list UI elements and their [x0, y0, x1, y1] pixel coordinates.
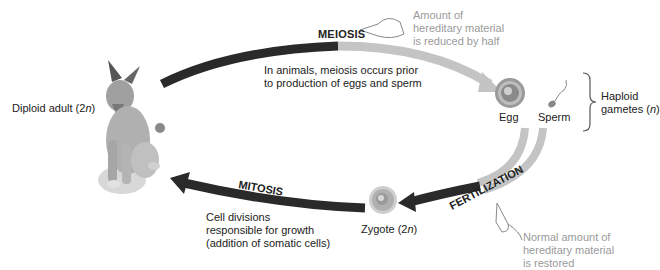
zygote-label: Zygote (2n): [361, 223, 417, 236]
zygote-label-text: Zygote (2: [361, 223, 407, 235]
diploid-adult-label-text: Diploid adult (2: [12, 102, 85, 114]
egg-label: Egg: [499, 111, 519, 124]
haploid-gametes-line1: Haploid: [601, 90, 660, 103]
haploid-gametes-label: Haploid gametes (n): [601, 90, 660, 116]
meiosis-title: MEIOSIS: [318, 28, 365, 40]
fertilization-note-line3: is restored: [523, 257, 614, 270]
meiosis-description: In animals, meiosis occurs prior to prod…: [264, 64, 422, 90]
fertilization-note-line1: Normal amount of: [523, 231, 614, 244]
sperm-cell: [547, 80, 567, 109]
pointing-hand-icon-meiosis: [360, 18, 404, 37]
mitosis-description: Cell divisions responsible for growth (a…: [206, 211, 330, 250]
gametes-bracket: [583, 73, 596, 131]
fertilization-note-line2: hereditary material: [523, 244, 614, 257]
mitosis-description-line3: (addition of somatic cells): [206, 237, 330, 250]
mitosis-description-line2: responsible for growth: [206, 224, 330, 237]
zygote-cell: [369, 186, 397, 214]
meiosis-description-line2: to production of eggs and sperm: [264, 77, 422, 90]
diploid-adult-label-close: ): [92, 102, 96, 114]
fertilization-arrowhead: [398, 192, 416, 212]
meiosis-note: Amount of hereditary material is reduced…: [413, 9, 504, 48]
meiosis-note-line1: Amount of: [413, 9, 504, 22]
sperm-label: Sperm: [538, 111, 570, 124]
dog-illustration: [98, 60, 165, 194]
pointing-hand-icon-fertilization: [496, 203, 522, 240]
mitosis-description-line1: Cell divisions: [206, 211, 330, 224]
haploid-gametes-line2-close: ): [656, 103, 660, 115]
egg-cell: [495, 78, 525, 108]
meiosis-description-line1: In animals, meiosis occurs prior: [264, 64, 422, 77]
mitosis-arrowhead: [170, 172, 190, 194]
diploid-adult-label: Diploid adult (2n): [12, 102, 95, 115]
haploid-gametes-line2-text: gametes (: [601, 103, 650, 115]
fertilization-note: Normal amount of hereditary material is …: [523, 231, 614, 270]
haploid-gametes-line2: gametes (n): [601, 103, 660, 116]
zygote-label-close: ): [414, 223, 418, 235]
meiosis-note-line3: is reduced by half: [413, 35, 504, 48]
meiosis-note-line2: hereditary material: [413, 22, 504, 35]
